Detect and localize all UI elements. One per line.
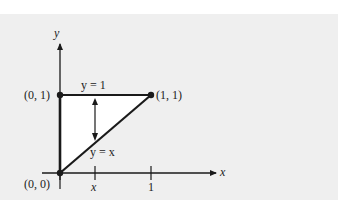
triangle-region-diagram: y x (0, 1) (1, 1) (0, 0) y = 1 y = x x 1	[0, 0, 354, 214]
x-axis-label: x	[219, 165, 226, 179]
curve-label-y-equals-x: y = x	[90, 145, 115, 159]
point-label-0-1: (0, 1)	[24, 88, 50, 102]
point-label-1-1: (1, 1)	[156, 88, 182, 102]
point-origin	[57, 170, 63, 176]
point-label-origin: (0, 0)	[24, 177, 50, 191]
tick-label-x: x	[90, 180, 97, 194]
point-0-1	[57, 92, 63, 98]
point-1-1	[148, 92, 154, 98]
tick-label-1: 1	[148, 180, 154, 194]
curve-label-y-equals-1: y = 1	[81, 78, 106, 92]
y-axis-label: y	[53, 26, 60, 40]
